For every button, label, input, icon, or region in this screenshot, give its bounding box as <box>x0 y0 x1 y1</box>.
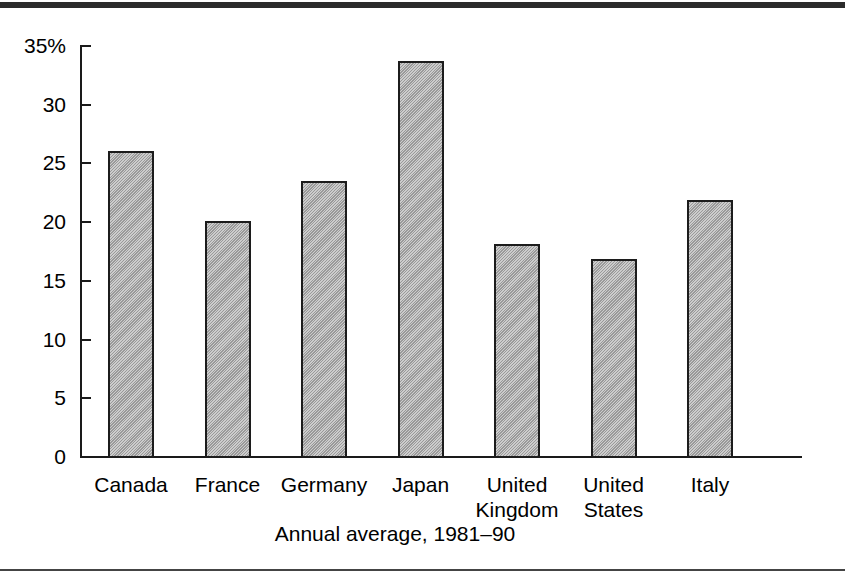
y-axis-tick-label: 20 <box>4 211 66 232</box>
x-axis-category-label: Italy <box>635 472 785 497</box>
bar <box>301 181 347 458</box>
bar-chart-plot-area: 05101520253035% CanadaFranceGermanyJapan… <box>0 0 845 587</box>
y-axis-tick-label: 35% <box>4 35 66 56</box>
bar <box>494 244 540 458</box>
y-axis-tick-label: 15 <box>4 270 66 291</box>
y-axis-tick <box>80 280 91 282</box>
y-axis-tick <box>80 162 91 164</box>
y-axis-tick <box>80 339 91 341</box>
y-axis-tick-label: 25 <box>4 152 66 173</box>
y-axis-tick-label: 10 <box>4 329 66 350</box>
y-axis-tick-label: 0 <box>4 446 66 467</box>
y-axis-tick <box>80 397 91 399</box>
y-axis-tick <box>80 104 91 106</box>
y-axis-tick-label: 30 <box>4 94 66 115</box>
chart-subtitle: Annual average, 1981–90 <box>0 522 790 546</box>
y-axis-line <box>80 46 82 458</box>
bar <box>591 259 637 458</box>
y-axis-tick <box>80 45 91 47</box>
bar <box>398 61 444 458</box>
y-axis-tick <box>80 221 91 223</box>
bar <box>205 221 251 458</box>
bar <box>108 151 154 458</box>
y-axis-tick-label: 5 <box>4 387 66 408</box>
chart-figure: 05101520253035% CanadaFranceGermanyJapan… <box>0 0 845 587</box>
y-axis-tick <box>80 456 91 458</box>
bar <box>687 200 733 458</box>
